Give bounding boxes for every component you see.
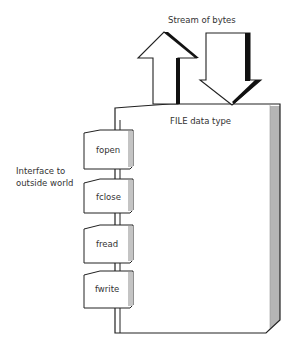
file-data-type-box (115, 104, 280, 333)
interface-label-line2: outside world (16, 178, 73, 188)
interface-label-line1: Interface to (16, 166, 65, 176)
function-label-fwrite: fwrite (95, 284, 119, 294)
stream-of-bytes-label: Stream of bytes (168, 15, 236, 25)
down-arrow-icon (200, 33, 261, 105)
up-arrow-icon (138, 32, 199, 104)
function-label-fclose: fclose (96, 192, 121, 202)
function-label-fread: fread (96, 239, 118, 249)
file-io-diagram: Stream of bytes FILE data type Interface… (0, 0, 295, 345)
file-data-type-label: FILE data type (170, 116, 231, 126)
function-label-fopen: fopen (96, 145, 120, 155)
